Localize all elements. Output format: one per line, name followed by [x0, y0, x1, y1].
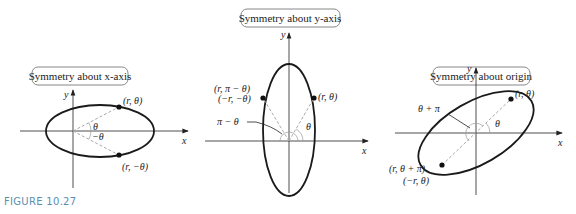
panel-title: Symmetry about x-axis	[29, 70, 132, 82]
point-label: (r, θ)	[515, 88, 535, 100]
angle-label: θ	[495, 118, 500, 129]
panel-x-axis-symmetry: Symmetry about x-axis x y (r, θ) (r, −θ)…	[20, 67, 188, 188]
leader-line	[448, 114, 470, 128]
x-axis-label: x	[361, 145, 367, 156]
y-axis-label: y	[466, 63, 472, 74]
angle-label: θ + π	[418, 103, 441, 114]
figure-caption: FIGURE 10.27	[4, 196, 76, 207]
panel-origin-symmetry: Symmetry about origin x y (r, θ) (r, θ +…	[389, 63, 563, 195]
panel-y-axis-symmetry: Symmetry about y-axis x y (r, θ) (r, π −…	[205, 9, 368, 196]
panel-title: Symmetry about origin	[430, 70, 533, 82]
angle-label: π − θ	[217, 116, 239, 127]
point-label: (r, θ)	[318, 91, 338, 103]
point	[116, 152, 121, 157]
point	[116, 104, 121, 109]
x-axis-label: x	[181, 135, 187, 146]
y-axis-label: y	[280, 29, 286, 40]
point	[508, 96, 513, 101]
point	[260, 95, 265, 100]
x-axis-label: x	[557, 137, 563, 148]
point-label: (−r, θ)	[403, 175, 430, 187]
symmetry-figure: Symmetry about x-axis x y (r, θ) (r, −θ)…	[0, 0, 576, 214]
point-label: (r, θ)	[123, 95, 143, 107]
angle-label: θ	[306, 121, 311, 132]
point-label: (r, −θ)	[122, 161, 149, 173]
angle-label: −θ	[92, 131, 104, 142]
panel-title: Symmetry about y-axis	[239, 12, 342, 24]
point	[439, 162, 444, 167]
point-label: (−r, −θ)	[218, 93, 252, 105]
point-label: (r, θ + π)	[389, 163, 426, 175]
point	[311, 95, 316, 100]
y-axis-label: y	[63, 89, 69, 100]
ray	[263, 98, 289, 141]
leader-line	[247, 122, 282, 134]
